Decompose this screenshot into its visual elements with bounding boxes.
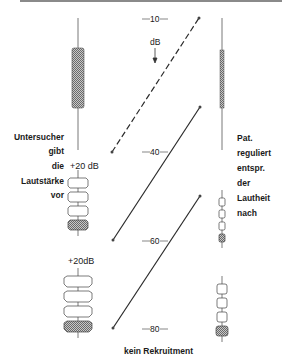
left-label-1: gibt [48,146,64,156]
unit-label: dB [150,37,160,47]
tick-10: 10 [150,14,159,24]
left-label-4: vor [51,190,64,200]
scale-ticks [142,19,168,329]
left-reference-cylinder [72,18,84,150]
matching-lines [112,18,200,328]
right-stack-2 [216,276,228,342]
left-label-0: Untersucher [14,132,64,142]
tick-40: 40 [150,147,159,157]
left-label-2: die [52,161,64,171]
right-reference-cylinder [220,18,224,150]
right-label-3: der [237,178,250,188]
tick-80: 80 [150,324,159,334]
right-label-2: entspr. [237,163,265,173]
left-stack-2 [64,268,92,338]
right-label-1: reguliert [237,148,271,158]
increment-label-2: +20dB [68,256,94,266]
right-stack-1 [219,190,225,248]
increment-label-1: +20 dB [70,161,99,171]
left-stack-1 [68,170,88,236]
right-label-0: Pat. [237,133,253,143]
tick-60: 60 [150,236,159,246]
right-label-4: Lautheit [237,193,270,203]
left-label-3: Lautstärke [21,176,64,186]
solid-line-60-80 [113,196,200,328]
right-label-5: nach [237,208,257,218]
caption: kein Rekruitment [124,346,193,356]
solid-line-40-60 [113,107,200,240]
arrow-down-icon [153,48,157,63]
